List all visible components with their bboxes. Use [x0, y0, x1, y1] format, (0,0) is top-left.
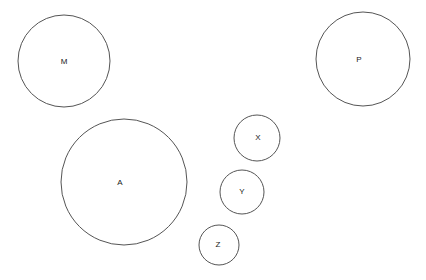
circle-label-x: X: [255, 133, 261, 142]
circle-node-y[interactable]: Y: [220, 170, 264, 214]
circle-outline-p[interactable]: [316, 12, 410, 106]
circles-diagram: MPAXYZ: [0, 0, 426, 280]
circle-outline-a[interactable]: [61, 119, 187, 245]
circle-label-m: M: [61, 57, 68, 66]
circle-label-p: P: [356, 55, 361, 64]
circle-node-z[interactable]: Z: [199, 225, 239, 265]
circle-label-y: Y: [239, 187, 245, 196]
circle-node-m[interactable]: M: [18, 15, 110, 107]
circle-label-z: Z: [216, 240, 221, 249]
circle-node-a[interactable]: A: [61, 119, 187, 245]
circle-node-x[interactable]: X: [234, 115, 280, 161]
circle-label-a: A: [117, 178, 123, 187]
circle-node-p[interactable]: P: [316, 12, 410, 106]
diagram-canvas: MPAXYZ: [0, 0, 426, 280]
